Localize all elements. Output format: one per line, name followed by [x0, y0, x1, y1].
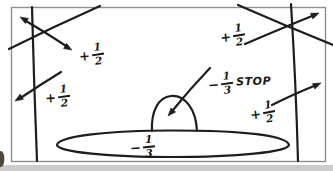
fraction-numerator: 1 — [222, 70, 230, 81]
fraction-one-third: 1 3 — [220, 70, 234, 95]
top-right-cross-line — [238, 5, 333, 45]
fraction-numerator: 1 — [234, 22, 242, 33]
scan-edge-strip — [0, 165, 333, 171]
fraction-denominator: 3 — [145, 148, 153, 159]
minus-sign: − — [208, 78, 220, 92]
fraction-bar — [143, 145, 155, 148]
hand-drawn-figure: + 1 2 + 1 2 + 1 2 + 1 2 − — [0, 0, 333, 171]
fraction-one-half: 1 2 — [232, 22, 247, 48]
top-right-arrowhead-icon — [310, 13, 319, 19]
mid-left-arrowhead-icon — [15, 94, 23, 101]
left-vertical-stroke — [32, 7, 37, 161]
mid-left-spin-label: + 1 2 — [44, 83, 71, 109]
plus-sign: + — [79, 49, 91, 63]
scan-artifact-blob — [0, 151, 4, 167]
top-left-spin-label: + 1 2 — [78, 41, 105, 68]
dome-outline — [152, 96, 197, 131]
plus-sign: + — [249, 107, 261, 121]
fraction-numerator: 1 — [264, 99, 273, 110]
mid-right-spin-label: + 1 2 — [249, 99, 277, 126]
fraction-numerator: 1 — [93, 41, 101, 52]
fraction-one-third: 1 3 — [142, 134, 155, 159]
fraction-numerator: 1 — [145, 134, 153, 145]
fraction-numerator: 1 — [59, 83, 67, 94]
top-right-spin-label: + 1 2 — [219, 22, 246, 49]
mid-right-arrowhead-icon — [313, 83, 322, 89]
fraction-denominator: 2 — [235, 36, 243, 47]
platform-ellipse — [57, 131, 289, 158]
fraction-denominator: 2 — [94, 55, 102, 66]
platform-charge-label: − 1 3 — [130, 134, 156, 159]
fraction-one-half: 1 2 — [91, 41, 105, 67]
minus-sign: − — [130, 141, 141, 154]
dome-pointer-arrow — [173, 68, 210, 110]
top-right-spin-arrow — [245, 16, 312, 44]
fraction-denominator: 3 — [223, 84, 231, 95]
mid-right-spin-arrow — [272, 86, 314, 105]
dome-charge-label: − 1 3 — [207, 70, 234, 96]
fraction-denominator: 2 — [265, 113, 274, 124]
plus-sign: + — [45, 91, 57, 105]
plus-sign: + — [219, 30, 231, 44]
fraction-denominator: 2 — [60, 97, 68, 108]
fraction-one-half: 1 2 — [57, 83, 71, 108]
stop-text: STOP — [236, 75, 272, 87]
